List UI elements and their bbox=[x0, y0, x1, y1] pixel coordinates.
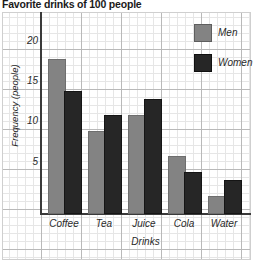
x-axis-label: Drinks bbox=[40, 236, 251, 247]
legend-swatch-men-icon bbox=[194, 24, 212, 42]
x-axis-categories: CoffeeTeaJuiceColaWater bbox=[40, 218, 251, 234]
bar-water-women bbox=[224, 180, 242, 214]
bar-coffee-women bbox=[64, 91, 82, 214]
x-category-label: Tea bbox=[84, 218, 124, 229]
x-category-label: Cola bbox=[164, 218, 204, 229]
bars-layer bbox=[42, 12, 251, 214]
y-axis-label: Frequency (people) bbox=[9, 46, 20, 166]
legend-label-men: Men bbox=[218, 27, 237, 38]
x-category-label: Coffee bbox=[44, 218, 84, 229]
bar-tea-women bbox=[104, 115, 122, 214]
bar-cola-women bbox=[184, 172, 202, 214]
x-category-label: Juice bbox=[124, 218, 164, 229]
legend-swatch-women-icon bbox=[194, 54, 212, 72]
x-category-label: Water bbox=[204, 218, 244, 229]
chart-figure: Favorite drinks of 100 people 5101520 Fr… bbox=[0, 0, 259, 262]
bar-juice-women bbox=[144, 99, 162, 214]
legend-label-women: Women bbox=[218, 57, 252, 68]
y-tick-label: 20 bbox=[4, 34, 38, 45]
